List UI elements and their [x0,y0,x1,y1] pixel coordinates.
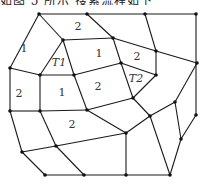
vertex-node [82,173,86,177]
edge [181,115,196,139]
region-label: 1 [59,86,66,99]
edge [74,75,87,110]
edge [170,139,181,175]
edge [10,14,39,68]
region-label: 1 [96,47,103,60]
edge [156,51,197,63]
vertex-node [154,49,158,53]
vertex-node [124,131,128,135]
edge [126,116,150,133]
vertex-node [43,173,47,177]
edge [56,133,126,146]
edge [63,38,113,40]
edge [56,146,84,175]
vertex-node [85,108,89,112]
vertex-node [179,137,183,141]
labels-group: 1212T1T22122 [16,20,144,131]
vertex-node [85,12,89,16]
edge [175,102,181,139]
vertex-node [8,66,12,70]
edge [113,38,121,63]
vertex-node [38,109,42,113]
edge [40,110,87,111]
vertex-node [143,12,147,16]
edge [10,111,22,152]
vertex-node [20,150,24,154]
region-label: 1 [21,42,28,55]
edge [150,102,175,116]
edge [87,110,126,133]
edge [87,98,133,110]
region-label: 2 [75,20,82,33]
edge [39,14,63,40]
vertex-node [194,12,198,16]
region-label: T1 [52,56,66,69]
vertex-node [8,109,12,113]
edge [22,152,45,175]
edge [22,146,56,152]
edge [175,63,197,102]
edge [150,116,170,175]
region-label: T2 [129,72,143,85]
edge [133,98,150,116]
region-label: 2 [134,50,141,63]
vertex-node [168,173,172,177]
mesh-diagram: 1212T1T22122 [0,0,206,189]
vertex-node [195,61,199,65]
vertex-node [194,113,198,117]
vertex-node [38,73,42,77]
vertex-node [148,114,152,118]
vertex-node [111,36,115,40]
edge [145,14,156,51]
edges-group [10,14,197,175]
edge [40,111,56,146]
region-label: 2 [16,87,23,100]
vertex-node [119,61,123,65]
edge [87,14,113,38]
vertex-node [61,38,65,42]
region-label: 2 [69,118,76,131]
vertex-node [173,100,177,104]
vertex-node [154,73,158,77]
vertex-node [54,144,58,148]
edge [10,68,40,75]
nodes-group [8,12,199,177]
vertex-node [72,73,76,77]
vertex-node [37,12,41,16]
region-label: 2 [95,80,102,93]
edge [74,63,121,75]
vertex-node [124,173,128,177]
vertex-node [131,96,135,100]
